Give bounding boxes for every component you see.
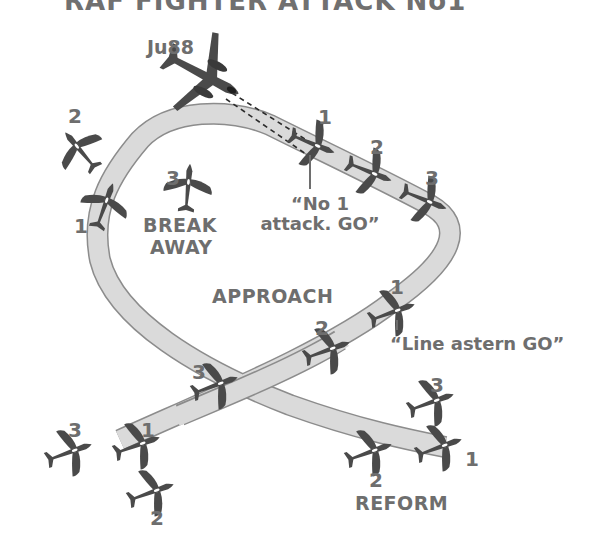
attack-number-1: 1 (318, 107, 332, 127)
line-astern-call: “Line astern GO” (390, 335, 564, 353)
reform-number-3: 3 (430, 375, 444, 395)
attack-number-3: 3 (425, 168, 439, 188)
approach-label: APPROACH (212, 287, 333, 306)
approach-number-1: 1 (390, 277, 404, 297)
no1-attack-call-line1: “No 1 (270, 195, 370, 213)
reform-number-2: 2 (369, 470, 383, 490)
break-away-label-line2: AWAY (150, 238, 213, 257)
no1-attack-call-line2: attack. GO” (250, 215, 390, 233)
approach-number-2: 2 (315, 318, 329, 338)
start-number-2: 2 (150, 508, 164, 528)
line-astern-pointer (396, 320, 398, 330)
ju88-label: Ju88 (147, 38, 194, 57)
reform-label: REFORM (355, 494, 448, 513)
start-number-3: 3 (68, 420, 82, 440)
attack-number-2: 2 (370, 137, 384, 157)
breakaway-number-1: 1 (74, 216, 88, 236)
approach-number-3: 3 (192, 362, 206, 382)
flight-path-layer (0, 0, 612, 560)
start-number-1: 1 (141, 420, 155, 440)
diagram-title: RAF FIGHTER ATTACK No1 (64, 0, 466, 14)
no1-attack-pointer (309, 155, 311, 189)
attack-diagram: RAF FIGHTER ATTACK No1 Ju88 1 2 3 “No 1 … (0, 0, 612, 560)
reform-number-1: 1 (465, 449, 479, 469)
breakaway-number-3: 3 (166, 168, 180, 188)
breakaway-number-2: 2 (68, 106, 82, 126)
break-away-label-line1: BREAK (143, 216, 217, 235)
